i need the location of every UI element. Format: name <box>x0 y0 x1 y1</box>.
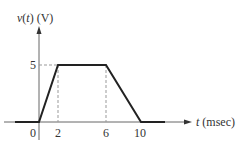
x-tick-10: 10 <box>134 126 146 140</box>
signal-trace <box>15 65 165 122</box>
x-tick-6: 6 <box>103 126 109 140</box>
x-axis-arrow-icon <box>184 120 192 125</box>
y-axis-arrow-icon <box>37 26 42 34</box>
x-axis-label: t (msec) <box>196 115 235 129</box>
y-tick-5: 5 <box>30 58 36 72</box>
x-tick-2: 2 <box>55 126 61 140</box>
waveform-chart: v(t) (V) 5 0 2 6 10 t (msec) <box>0 0 248 154</box>
y-axis-label: v(t) (V) <box>17 11 53 25</box>
x-tick-0: 0 <box>30 126 36 140</box>
